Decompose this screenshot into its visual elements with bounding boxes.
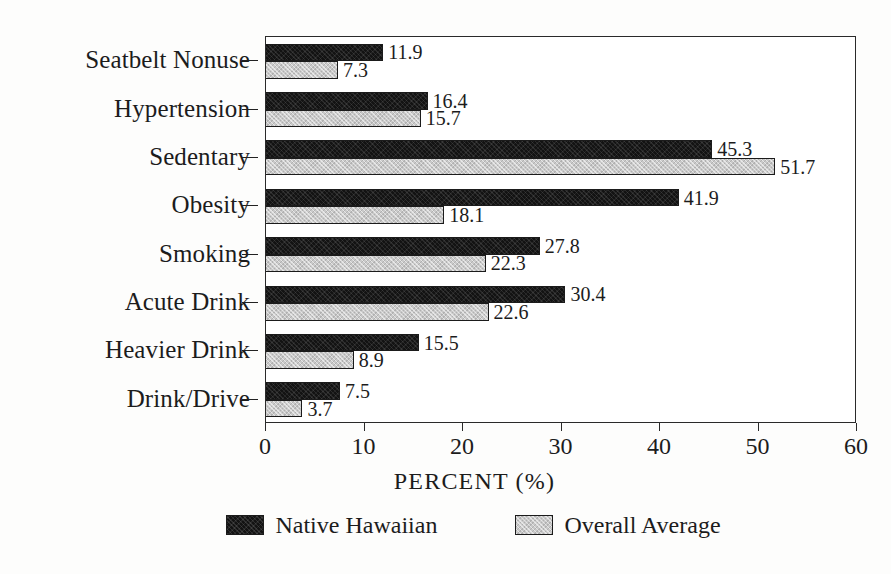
bar-value-label: 51.7 [780, 157, 815, 177]
category-axis: Seatbelt NonuseHypertensionSedentaryObes… [0, 36, 258, 423]
bar-overall-average [266, 110, 421, 128]
x-axis-tick [659, 423, 660, 431]
x-axis-tick [856, 423, 857, 431]
bar-value-label: 22.3 [491, 253, 526, 273]
bar-value-label: 11.9 [388, 42, 422, 62]
x-axis-tick-label: 60 [844, 434, 868, 458]
bar-overall-average [266, 158, 775, 176]
category-tick [242, 254, 258, 255]
bar-overall-average [266, 351, 354, 369]
x-axis-tick-label: 20 [450, 434, 474, 458]
x-axis: 0102030405060 [265, 423, 856, 469]
bar-value-label: 3.7 [307, 399, 332, 419]
category-label: Drink/Drive [127, 386, 250, 411]
category-label: Heavier Drink [105, 337, 250, 362]
category-label: Sedentary [149, 144, 250, 169]
bar-value-label: 45.3 [717, 139, 752, 159]
category-label: Seatbelt Nonuse [85, 47, 250, 72]
bar-value-label: 27.8 [545, 236, 580, 256]
bar-native-hawaiian [266, 140, 712, 158]
category-label: Hypertension [114, 96, 250, 121]
legend-label-overall-average: Overall Average [564, 513, 720, 537]
x-axis-tick-label: 50 [746, 434, 770, 458]
category-label: Smoking [159, 241, 250, 266]
x-axis-tick-label: 0 [259, 434, 271, 458]
x-axis-title: PERCENT (%) [0, 468, 891, 495]
legend-label-native-hawaiian: Native Hawaiian [275, 513, 437, 537]
category-tick [242, 157, 258, 158]
bar-value-label: 7.5 [345, 381, 370, 401]
legend-swatch-black-filled-icon [226, 515, 264, 535]
x-axis-tick [364, 423, 365, 431]
x-axis-tick-label: 10 [352, 434, 376, 458]
legend-item-native-hawaiian: Native Hawaiian [226, 513, 437, 537]
bar-value-label: 15.7 [426, 108, 461, 128]
bar-overall-average [266, 400, 302, 418]
category-tick [242, 109, 258, 110]
bar-value-label: 18.1 [449, 205, 484, 225]
category-tick [242, 350, 258, 351]
x-axis-tick [561, 423, 562, 431]
bar-native-hawaiian [266, 92, 428, 110]
bar-chart-figure: Seatbelt NonuseHypertensionSedentaryObes… [0, 0, 891, 574]
legend-item-overall-average: Overall Average [515, 513, 720, 537]
bar-value-label: 30.4 [570, 284, 605, 304]
bar-native-hawaiian [266, 334, 419, 352]
x-axis-tick-label: 40 [647, 434, 671, 458]
bar-overall-average [266, 303, 489, 321]
x-axis-tick [758, 423, 759, 431]
plot-area: 11.97.316.415.745.351.741.918.127.822.33… [265, 36, 856, 423]
bar-overall-average [266, 61, 338, 79]
x-axis-title-text: PERCENT (%) [394, 468, 555, 495]
bar-value-label: 22.6 [494, 302, 529, 322]
bar-value-label: 7.3 [343, 60, 368, 80]
bar-value-label: 15.5 [424, 333, 459, 353]
category-label: Obesity [172, 192, 250, 217]
chart-legend: Native Hawaiian Overall Average [0, 513, 891, 537]
category-tick [242, 205, 258, 206]
x-axis-tick [265, 423, 266, 431]
category-tick [242, 302, 258, 303]
legend-swatch-gray-filled-icon [515, 515, 553, 535]
category-tick [242, 399, 258, 400]
x-axis-tick-label: 30 [549, 434, 573, 458]
bar-overall-average [266, 206, 444, 224]
category-tick [242, 60, 258, 61]
x-axis-tick [462, 423, 463, 431]
bar-value-label: 8.9 [359, 350, 384, 370]
bar-overall-average [266, 255, 486, 273]
category-label: Acute Drink [125, 289, 250, 314]
bar-value-label: 41.9 [684, 188, 719, 208]
